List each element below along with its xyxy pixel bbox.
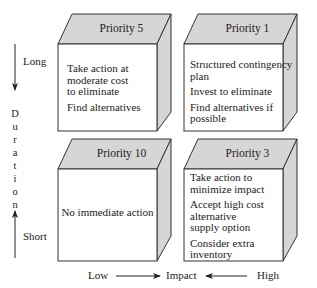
action-text: Consider extra <box>190 237 254 249</box>
action-text: plan <box>190 70 209 82</box>
action-text: No immediate action <box>61 206 153 218</box>
duration-short-label: Short <box>23 230 47 242</box>
action-text: to eliminate <box>67 85 119 97</box>
axis-letter: u <box>9 120 21 133</box>
priority-10-actions: No immediate action <box>58 207 157 219</box>
priority-3-actions: Take action tominimize impact Accept hig… <box>190 172 285 265</box>
action-text: moderate cost <box>67 74 128 86</box>
axis-letter: o <box>9 185 21 198</box>
priority-10-title: Priority 10 <box>72 147 171 159</box>
action-text: inventory <box>190 248 232 260</box>
axis-letter: i <box>9 172 21 185</box>
priority-3-title: Priority 3 <box>198 147 297 159</box>
action-text: possible <box>190 112 226 124</box>
action-text: Take action to <box>190 171 252 183</box>
impact-axis-label: Impact <box>166 269 197 281</box>
duration-long-label: Long <box>23 55 46 67</box>
priority-5-actions: Take action atmoderate costto eliminate … <box>67 63 157 117</box>
impact-high-label: High <box>257 269 279 281</box>
axis-letter: n <box>9 198 21 211</box>
action-text: Invest to eliminate <box>190 85 272 97</box>
action-text: Accept high cost <box>190 198 264 210</box>
action-text: Structured contingency <box>190 58 292 70</box>
action-text: Take action at <box>67 62 129 74</box>
action-text: Find alternatives <box>67 101 141 113</box>
action-text: supply option <box>190 221 250 233</box>
axis-letter: t <box>9 159 21 172</box>
action-text: Find alternatives if <box>190 101 273 113</box>
axis-letter: D <box>9 107 21 120</box>
impact-low-label: Low <box>88 269 108 281</box>
duration-axis-label: D u r a t i o n <box>9 107 21 211</box>
priority-1-title: Priority 1 <box>198 22 297 34</box>
axis-letter: a <box>9 146 21 159</box>
action-text: minimize impact <box>190 183 264 195</box>
axis-letter: r <box>9 133 21 146</box>
priority-5-title: Priority 5 <box>72 22 171 34</box>
action-text: alternative <box>190 210 236 222</box>
priority-1-actions: Structured contingencyplan Invest to eli… <box>190 59 295 129</box>
